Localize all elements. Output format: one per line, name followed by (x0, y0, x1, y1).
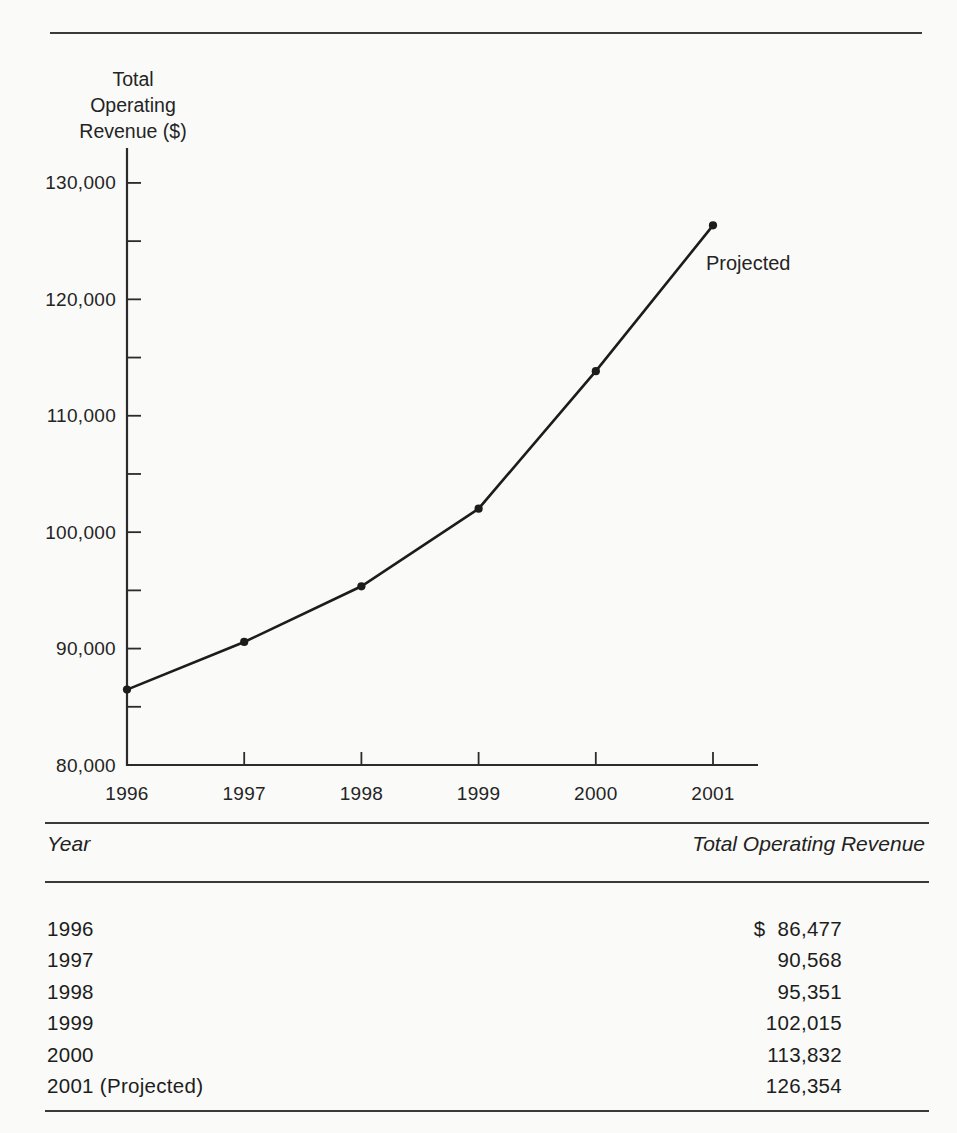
table-header-rule (45, 881, 929, 883)
revenue-value: 95,351 (777, 980, 842, 1003)
year-cell: 2000 (45, 1043, 94, 1067)
year-cell: 1998 (45, 980, 94, 1004)
y-tick-label: 80,000 (56, 755, 116, 776)
table-row: 2001 (Projected)126,354 (45, 1071, 929, 1103)
projected-annotation: Projected (706, 252, 791, 274)
data-point-marker (357, 582, 365, 590)
year-column-header: Year (45, 833, 90, 855)
data-point-marker (123, 685, 131, 693)
y-tick-label: 130,000 (45, 172, 116, 193)
data-point-marker (475, 505, 483, 513)
y-tick-label: 120,000 (45, 289, 116, 310)
y-tick-label: 100,000 (45, 522, 116, 543)
year-cell: 1999 (45, 1011, 94, 1035)
revenue-line (127, 225, 713, 689)
x-tick-label: 1998 (340, 783, 383, 804)
x-tick-label: 2000 (574, 783, 617, 804)
table-header-row: Year Total Operating Revenue (45, 833, 929, 855)
year-cell: 1996 (45, 917, 94, 941)
data-point-marker (592, 367, 600, 375)
x-tick-label: 1999 (457, 783, 500, 804)
table-row: 199895,351 (45, 976, 929, 1008)
table-row: 199790,568 (45, 945, 929, 977)
y-axis-title-line: Total (112, 68, 153, 90)
table-top-rule (45, 822, 929, 824)
x-tick-label: 1997 (222, 783, 265, 804)
scanned-figure-page: TotalOperatingRevenue ($)80,00090,000100… (0, 0, 957, 1133)
revenue-cell: 113,832 (767, 1043, 929, 1067)
table-row: 2000113,832 (45, 1039, 929, 1071)
revenue-cell: 90,568 (777, 948, 929, 972)
y-axis-title-line: Revenue ($) (79, 120, 186, 142)
currency-symbol: $ (754, 917, 766, 941)
x-tick-label: 1996 (105, 783, 148, 804)
revenue-line-chart: TotalOperatingRevenue ($)80,00090,000100… (0, 0, 957, 820)
revenue-cell: 95,351 (777, 980, 929, 1004)
data-point-marker (709, 221, 717, 229)
revenue-value: 86,477 (777, 917, 842, 940)
revenue-value: 90,568 (777, 948, 842, 971)
revenue-value: 102,015 (766, 1011, 842, 1034)
revenue-cell: 102,015 (766, 1011, 929, 1035)
revenue-column-header: Total Operating Revenue (692, 833, 929, 855)
revenue-cell: 126,354 (766, 1074, 929, 1098)
revenue-value: 126,354 (766, 1074, 842, 1097)
year-cell: 1997 (45, 948, 94, 972)
y-axis-title-line: Operating (90, 94, 176, 116)
revenue-value: 113,832 (767, 1043, 842, 1066)
table-bottom-rule (45, 1110, 929, 1112)
data-point-marker (240, 638, 248, 646)
table-row: 1999102,015 (45, 1008, 929, 1040)
revenue-table-body: 1996$86,477199790,568199895,3511999102,0… (45, 913, 929, 1102)
y-tick-label: 90,000 (56, 638, 116, 659)
table-row: 1996$86,477 (45, 913, 929, 945)
x-tick-label: 2001 (691, 783, 734, 804)
revenue-cell: $86,477 (754, 917, 929, 941)
y-tick-label: 110,000 (47, 405, 116, 426)
year-cell: 2001 (Projected) (45, 1074, 203, 1098)
